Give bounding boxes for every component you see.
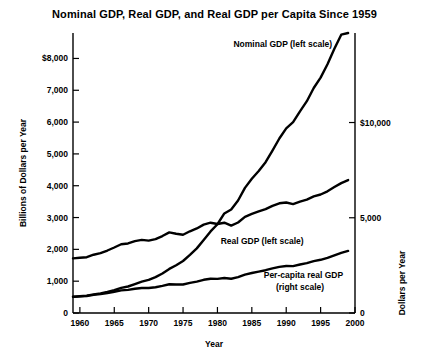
y-tick-label-left: 3,000 bbox=[47, 213, 69, 223]
y-axis-left-title: Billions of Dollars per Year bbox=[18, 118, 28, 227]
x-tick-label: 1960 bbox=[70, 318, 89, 328]
y-tick-label-left: $8,000 bbox=[42, 53, 68, 63]
x-tick-label: 1985 bbox=[242, 318, 261, 328]
series-line-0 bbox=[73, 33, 348, 297]
series-annotation-3: (right scale) bbox=[276, 282, 324, 292]
series-annotation-2: Per-capita real GDP bbox=[264, 270, 344, 280]
series-annotation-0: Nominal GDP (left scale) bbox=[233, 39, 332, 49]
data-series-group bbox=[73, 33, 348, 297]
y-tick-label-right: 0 bbox=[360, 308, 365, 318]
x-tick-label: 1970 bbox=[139, 318, 158, 328]
series-annotation-1: Real GDP (left scale) bbox=[221, 236, 304, 246]
x-axis-ticks: 196019651970197519801985199019952000 bbox=[70, 307, 364, 328]
y-tick-label-left: 2,000 bbox=[47, 244, 69, 254]
y-tick-label-left: 1,000 bbox=[47, 276, 69, 286]
y-tick-label-left: 5,000 bbox=[47, 149, 69, 159]
y-axis-right-title: Dollars per Year bbox=[397, 250, 407, 315]
chart-plot-area: 01,0002,0003,0004,0005,0006,0007,000$8,0… bbox=[0, 0, 429, 353]
y-tick-label-right: 5,000 bbox=[360, 213, 382, 223]
y-tick-label-left: 0 bbox=[63, 308, 68, 318]
series-line-2 bbox=[73, 180, 348, 258]
x-tick-label: 1990 bbox=[277, 318, 296, 328]
chart-figure: Nominal GDP, Real GDP, and Real GDP per … bbox=[0, 0, 429, 353]
x-tick-label: 1995 bbox=[311, 318, 330, 328]
x-tick-label: 1975 bbox=[174, 318, 193, 328]
y-tick-label-left: 6,000 bbox=[47, 117, 69, 127]
x-axis-title: Year bbox=[205, 339, 224, 349]
y-tick-label-left: 4,000 bbox=[47, 181, 69, 191]
y-tick-label-right: $10,000 bbox=[360, 118, 391, 128]
x-tick-label: 2000 bbox=[346, 318, 365, 328]
series-annotations: Nominal GDP (left scale)Real GDP (left s… bbox=[221, 39, 344, 292]
x-tick-label: 1980 bbox=[208, 318, 227, 328]
x-tick-label: 1965 bbox=[105, 318, 124, 328]
y-tick-label-left: 7,000 bbox=[47, 85, 69, 95]
